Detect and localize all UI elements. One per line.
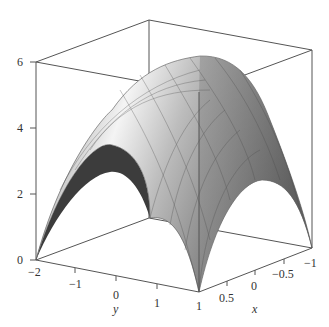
surface-right-face — [199, 56, 312, 292]
x-tick-label: −1 — [304, 257, 317, 269]
z-tick-label: 2 — [17, 188, 23, 200]
z-tick-label: 6 — [17, 56, 23, 68]
z-tick-label: 0 — [17, 254, 23, 266]
y-tick-label: 1 — [196, 300, 202, 312]
y-axis-label: y — [113, 303, 118, 315]
y-tick-label: 1 — [154, 297, 160, 309]
x-tick-label: −0.5 — [272, 268, 294, 280]
surface-underside-left — [36, 145, 150, 260]
x-tick-label: 0 — [251, 280, 257, 292]
y-tick-label: −1 — [69, 278, 82, 290]
z-tick-label: 4 — [17, 122, 23, 134]
x-axis-label: x — [252, 303, 257, 315]
y-tick-label: 0 — [113, 289, 119, 301]
x-tick-label: 0.5 — [219, 292, 234, 304]
y-tick-label: −2 — [28, 266, 41, 278]
